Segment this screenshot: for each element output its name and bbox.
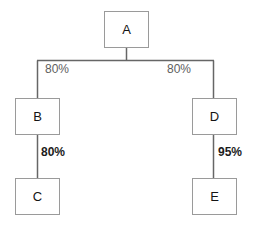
edge-label-b-to-c: 80% bbox=[41, 146, 65, 158]
edge-label-d-to-e: 95% bbox=[218, 146, 242, 158]
edge-label-a-to-b: 80% bbox=[45, 63, 69, 75]
node-d: D bbox=[192, 98, 237, 135]
node-e: E bbox=[192, 178, 237, 215]
node-a: A bbox=[104, 11, 149, 48]
edge-label-a-to-d: 80% bbox=[167, 63, 191, 75]
node-b: B bbox=[15, 98, 60, 135]
node-c: C bbox=[15, 178, 60, 215]
tree-diagram: A B D C E 80% 80% 80% 95% bbox=[0, 0, 259, 229]
